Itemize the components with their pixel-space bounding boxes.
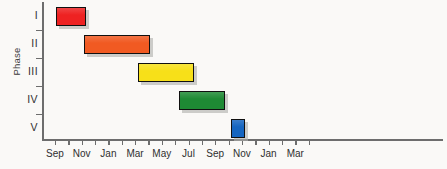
y-axis-tick-label-v: V xyxy=(0,121,38,135)
x-axis-tick xyxy=(95,140,96,145)
bar-highlight xyxy=(57,8,85,15)
x-axis-tick xyxy=(189,140,190,145)
x-axis-tick xyxy=(162,140,163,145)
x-axis-tick xyxy=(242,140,243,145)
y-axis-label-text: I xyxy=(10,9,38,21)
x-axis-tick xyxy=(68,140,69,145)
x-axis-tick xyxy=(282,140,283,145)
x-axis-tick xyxy=(215,140,216,145)
y-axis-tick xyxy=(36,30,43,31)
x-axis-tick xyxy=(108,140,109,145)
gantt-bar-phase-v[interactable] xyxy=(231,119,245,138)
gantt-chart: Phase IIIIIIIVV SepNovJanMarMayJulSepNov… xyxy=(0,0,447,169)
y-axis-tick xyxy=(36,86,43,87)
gantt-bar-phase-i[interactable] xyxy=(56,7,86,26)
x-axis-tick xyxy=(229,140,230,145)
bar-highlight xyxy=(85,36,150,43)
x-axis-tick xyxy=(255,140,256,145)
bar-highlight xyxy=(180,92,223,99)
y-axis-tick xyxy=(36,114,43,115)
bar-highlight xyxy=(139,64,192,71)
y-axis-line xyxy=(42,2,44,140)
x-axis-tick xyxy=(135,140,136,145)
x-axis-tick xyxy=(309,140,310,145)
y-axis-label-text: III xyxy=(10,65,38,77)
bar-highlight xyxy=(232,120,244,127)
x-axis-tick xyxy=(175,140,176,145)
y-axis-label-text: II xyxy=(10,37,38,49)
y-axis-tick-label-i: I xyxy=(0,9,38,23)
x-axis-tick xyxy=(55,140,56,145)
x-axis-tick xyxy=(148,140,149,145)
y-axis-label-text: IV xyxy=(10,93,38,105)
x-axis-label-9: Mar xyxy=(275,148,315,159)
y-axis-tick-label-iii: III xyxy=(0,65,38,79)
y-axis-tick xyxy=(36,58,43,59)
x-axis-tick xyxy=(82,140,83,145)
x-axis-tick xyxy=(295,140,296,145)
y-axis-tick-label-ii: II xyxy=(0,37,38,51)
gantt-bar-phase-ii[interactable] xyxy=(84,35,151,54)
gantt-bar-phase-iii[interactable] xyxy=(138,63,193,82)
y-axis-label-text: V xyxy=(10,121,38,133)
x-axis-tick xyxy=(202,140,203,145)
x-axis-tick xyxy=(122,140,123,145)
gantt-bar-phase-iv[interactable] xyxy=(179,91,224,110)
x-axis-tick xyxy=(269,140,270,145)
y-axis-tick-label-iv: IV xyxy=(0,93,38,107)
